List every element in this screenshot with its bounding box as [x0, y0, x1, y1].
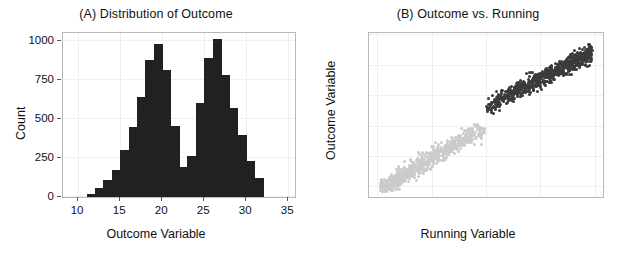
grid-line-horizontal [369, 126, 603, 127]
scatter-point [390, 182, 393, 185]
scatter-point [570, 73, 573, 76]
y-tick-label: 1000 [20, 34, 54, 46]
scatter-point [429, 167, 432, 170]
y-tick-label: 250 [20, 151, 54, 163]
scatter-point [589, 60, 592, 63]
scatter-point [539, 86, 542, 89]
y-tick-mark [57, 118, 61, 119]
scatter-point [434, 152, 437, 155]
grid-line-vertical [288, 33, 289, 197]
scatter-point [558, 71, 561, 74]
scatter-point [399, 178, 402, 181]
y-tick-label: 750 [20, 73, 54, 85]
x-tick-mark [77, 197, 78, 201]
x-tick-mark [203, 197, 204, 201]
grid-line-horizontal [63, 118, 295, 119]
scatter-point [383, 187, 386, 190]
scatter-point [453, 152, 456, 155]
scatter-point [544, 84, 547, 87]
scatter-point [434, 141, 437, 144]
scatter-point [492, 112, 495, 115]
scatter-point [590, 54, 593, 57]
scatter-point [519, 95, 522, 98]
y-tick-mark [57, 40, 61, 41]
scatter-point [578, 66, 581, 69]
scatter-point [398, 184, 401, 187]
scatter-point [463, 144, 466, 147]
grid-line-horizontal [369, 156, 603, 157]
scatter-point [577, 62, 580, 65]
histogram-bar [255, 178, 264, 197]
scatter-point [384, 184, 387, 187]
scatter-point [528, 86, 531, 89]
scatter-point [460, 138, 463, 141]
panel-b-title: (B) Outcome vs. Running [312, 6, 624, 22]
scatter-point [435, 162, 438, 165]
scatter-point [530, 71, 533, 74]
scatter-point [490, 101, 493, 104]
scatter-point [529, 91, 532, 94]
scatter-point [448, 149, 451, 152]
scatter-point [532, 89, 535, 92]
x-tick-mark [287, 197, 288, 201]
scatter-point [482, 129, 485, 132]
y-tick-mark [57, 196, 61, 197]
panel-b-y-axis-title: Outcome Variable [324, 61, 338, 160]
scatter-point [567, 67, 570, 70]
panel-b-plot-area [368, 32, 604, 198]
scatter-point [415, 179, 418, 182]
grid-line-vertical [595, 33, 596, 197]
scatter-point [412, 166, 415, 169]
x-tick-mark [245, 197, 246, 201]
scatter-point [466, 140, 469, 143]
scatter-point [440, 141, 443, 144]
scatter-point [425, 161, 428, 164]
scatter-point [457, 150, 460, 153]
scatter-point [394, 181, 397, 184]
scatter-point [538, 83, 541, 86]
scatter-point [564, 64, 567, 67]
scatter-point [545, 80, 548, 83]
y-tick-mark [57, 157, 61, 158]
x-tick-label: 15 [113, 204, 126, 216]
scatter-point [470, 132, 473, 135]
scatter-point [512, 97, 515, 100]
scatter-point [494, 108, 497, 111]
scatter-point [407, 180, 410, 183]
scatter-point [480, 143, 483, 146]
grid-line-horizontal [63, 79, 295, 80]
grid-line-horizontal [369, 95, 603, 96]
panel-b-x-axis-title: Running Variable [312, 227, 624, 241]
scatter-point [536, 90, 539, 93]
grid-line-vertical [78, 33, 79, 197]
scatter-point [416, 168, 419, 171]
scatter-point [394, 188, 397, 191]
grid-line-horizontal [63, 40, 295, 41]
scatter-point [553, 78, 556, 81]
x-tick-label: 20 [155, 204, 168, 216]
grid-line-horizontal [369, 34, 603, 35]
panel-a-histogram: (A) Distribution of Outcome 101520253035… [0, 0, 312, 256]
panel-a-y-axis-title: Count [14, 107, 28, 140]
scatter-point [473, 143, 476, 146]
scatter-point [417, 175, 420, 178]
scatter-point [506, 91, 509, 94]
x-tick-label: 35 [281, 204, 294, 216]
scatter-point [486, 110, 489, 113]
scatter-point [400, 175, 403, 178]
scatter-point [478, 127, 481, 130]
x-tick-mark [119, 197, 120, 201]
panel-b-scatter: (B) Outcome vs. Running -20-100102010152… [312, 0, 624, 256]
y-tick-mark [57, 79, 61, 80]
scatter-point [458, 144, 461, 147]
grid-line-vertical [486, 33, 487, 197]
scatter-point [425, 169, 428, 172]
scatter-point [578, 57, 581, 60]
scatter-point [403, 160, 406, 163]
scatter-point [498, 109, 501, 112]
scatter-point [501, 99, 504, 102]
scatter-point [571, 61, 574, 64]
grid-line-vertical [432, 33, 433, 197]
x-tick-label: 25 [197, 204, 210, 216]
panel-a-x-axis-title: Outcome Variable [0, 227, 312, 241]
